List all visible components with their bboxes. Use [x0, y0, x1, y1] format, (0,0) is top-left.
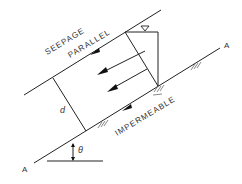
flow-arrow-2 [107, 69, 147, 92]
water-table-icon [141, 26, 149, 31]
flow-arrow-1 [97, 51, 145, 75]
slope-diagram: SEEPAGE PARALLEL IMPERMEABLE d θ A A [0, 0, 242, 184]
surface-arrow [90, 48, 100, 55]
angle-label: θ [78, 145, 83, 155]
section-label-right: A [224, 41, 230, 50]
angle-indicator [71, 143, 75, 161]
depth-line [53, 78, 86, 131]
section-label-left: A [22, 165, 28, 174]
impermeable-label: IMPERMEABLE [113, 95, 177, 138]
depth-label: d [60, 105, 66, 115]
